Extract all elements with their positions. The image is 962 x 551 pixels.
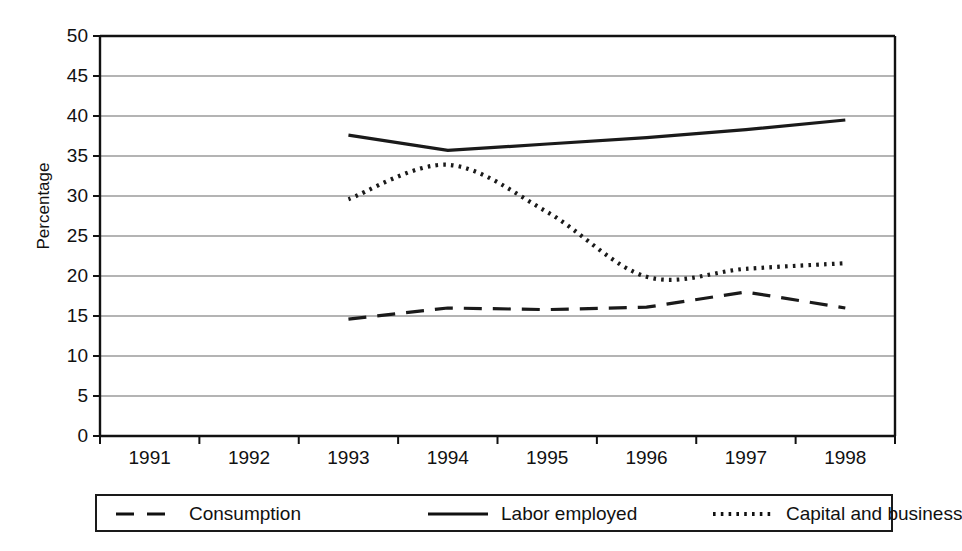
legend-label: Labor employed xyxy=(501,503,637,525)
legend-swatch-dotted-icon xyxy=(712,507,774,521)
series-line-labor-employed xyxy=(348,120,845,150)
legend-item-capital-and-business[interactable]: Capital and business xyxy=(712,496,962,532)
series-line-capital-and-business xyxy=(348,165,845,280)
legend-swatch-dashed-icon xyxy=(115,507,177,521)
legend-swatch-solid-icon xyxy=(427,507,489,521)
series-line-consumption xyxy=(348,292,845,319)
legend-label: Consumption xyxy=(189,503,301,525)
legend-item-consumption[interactable]: Consumption xyxy=(115,496,301,532)
chart-legend: ConsumptionLabor employedCapital and bus… xyxy=(95,494,893,532)
legend-item-labor-employed[interactable]: Labor employed xyxy=(427,496,637,532)
legend-label: Capital and business xyxy=(786,503,962,525)
